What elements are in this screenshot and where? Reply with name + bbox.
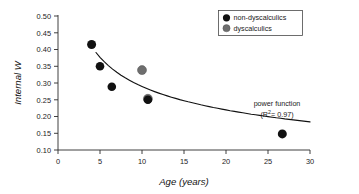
x-tick-label: 30: [306, 157, 314, 166]
y-tick-label: 0.35: [37, 62, 51, 71]
data-point-non-dyscalculics: [278, 129, 287, 138]
rsq-suffix: = 0.97): [271, 110, 294, 119]
fit-annotation-line1: power function: [254, 99, 301, 108]
x-tick-label: 5: [98, 157, 102, 166]
x-tick-label: 15: [180, 157, 188, 166]
legend-label-dyscalculics: dyscalculics: [234, 24, 273, 33]
y-tick-label: 0.50: [37, 12, 51, 21]
y-tick-label: 0.30: [37, 79, 51, 88]
rsq-prefix: (R: [260, 110, 268, 119]
y-tick-label: 0.20: [37, 112, 51, 121]
x-tick-label: 10: [138, 157, 146, 166]
x-tick-label: 0: [56, 157, 60, 166]
scatter-plot-svg: 0.50 0.45 0.40 0.35 0.30 0.25 0.20 0.15 …: [0, 0, 359, 194]
x-tick-label: 25: [264, 157, 272, 166]
data-point-non-dyscalculics: [108, 82, 117, 91]
legend-marker-non-dyscalculics: [223, 14, 230, 21]
fit-annotation-rsquared: (R2= 0.97): [260, 109, 293, 119]
legend-marker-dyscalculics: [223, 25, 230, 32]
y-tick-label: 0.15: [37, 129, 51, 138]
y-tick-label: 0.45: [37, 29, 51, 38]
chart-figure: 0.50 0.45 0.40 0.35 0.30 0.25 0.20 0.15 …: [0, 0, 359, 194]
data-point-non-dyscalculics: [96, 62, 105, 71]
x-axis-title: Age (years): [158, 176, 209, 187]
data-point-dyscalculics: [138, 66, 147, 75]
data-point-non-dyscalculics: [87, 40, 96, 49]
y-tick-label: 0.40: [37, 45, 51, 54]
x-tick-label: 20: [222, 157, 230, 166]
y-tick-label: 0.10: [37, 146, 51, 155]
legend-label-non-dyscalculics: non-dyscalculics: [234, 13, 287, 22]
y-axis-tick-labels: 0.50 0.45 0.40 0.35 0.30 0.25 0.20 0.15 …: [37, 12, 51, 155]
data-point-non-dyscalculics: [144, 96, 153, 105]
legend: non-dyscalculics dyscalculics: [219, 11, 303, 36]
y-axis-title: Internal W: [12, 60, 23, 105]
y-tick-label: 0.25: [37, 96, 51, 105]
